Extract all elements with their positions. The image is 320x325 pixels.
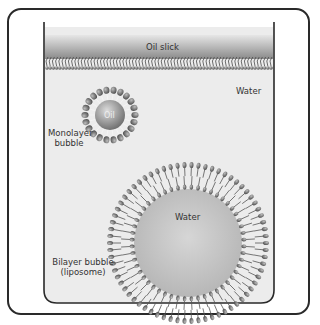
bilayer-label-line1: Bilayer bubble [52, 257, 114, 267]
bilayer-label-line2: (liposome) [52, 267, 114, 277]
bilayer-label: Bilayer bubble (liposome) [52, 257, 114, 277]
monolayer-label-line2: bubble [48, 138, 90, 148]
oil-core-label: Oil [104, 111, 115, 121]
monolayer-label-line1: Monolayer [48, 128, 90, 138]
water-inside-label: Water [175, 212, 200, 222]
monolayer-label: Monolayer bubble [48, 128, 90, 148]
oil-slick-label: Oil slick [146, 42, 179, 52]
water-outside-label: Water [236, 86, 261, 96]
